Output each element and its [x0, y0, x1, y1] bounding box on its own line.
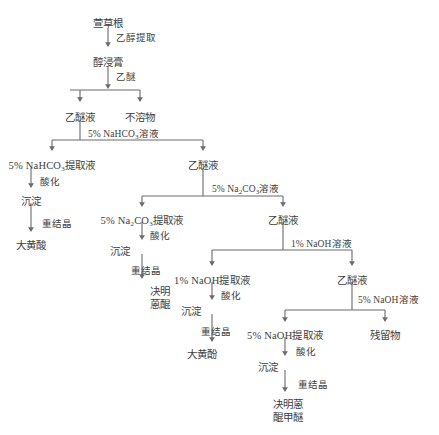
edge-label-ethanol: 乙醇提取	[116, 33, 156, 44]
node-naoh5_ex: 5% NaOH提取液	[247, 330, 323, 343]
edge-label-recryst4: 重结晶	[298, 380, 328, 391]
edge-label-acid1: 酸化	[40, 177, 60, 188]
node-precip2: 沉淀	[110, 246, 130, 259]
flowchart-edges	[0, 0, 439, 435]
edge-label-naoh1: 1% NaOH溶液	[291, 239, 352, 250]
node-eth4: 乙醚液	[337, 275, 368, 288]
flowchart-canvas: 萱草根醇浸膏乙醚液不溶物5% NaHCO3提取液乙醚液沉淀大黄酸5% Na2CO…	[0, 0, 439, 435]
edge-label-recryst3: 重结晶	[201, 327, 231, 338]
node-eth1: 乙醚液	[65, 112, 96, 125]
edge-label-ether: 乙醚	[116, 72, 136, 83]
edge-label-nahco3: 5% NaHCO3溶液	[88, 129, 159, 141]
node-chryso1: 决明蒽醌	[150, 286, 170, 311]
node-precip1: 沉淀	[21, 196, 41, 209]
node-final: 决明蒽醌甲醚	[273, 399, 304, 424]
edge-label-na2co3: 5% Na2CO3溶液	[212, 184, 279, 196]
edge-label-naoh5: 5% NaOH溶液	[358, 295, 419, 306]
node-root: 萱草根	[93, 18, 124, 31]
edge-label-acid4: 酸化	[296, 347, 316, 358]
edge-label-recryst2: 重结晶	[131, 266, 161, 277]
node-residue: 残留物	[370, 330, 401, 343]
edge-label-acid2: 酸化	[150, 231, 170, 242]
node-eth2: 乙醚液	[188, 160, 219, 173]
edge-label-acid3: 酸化	[221, 291, 241, 302]
node-extract: 醇浸膏	[93, 57, 124, 70]
node-insol: 不溶物	[125, 112, 156, 125]
node-precip4: 沉淀	[258, 362, 278, 375]
node-rhein: 大黄酸	[16, 240, 47, 253]
node-naoh1_ex: 1% NaOH提取液	[174, 275, 250, 288]
node-chrysophanol: 大黄酚	[187, 349, 218, 362]
node-nahco3_ex: 5% NaHCO3提取液	[9, 160, 96, 174]
node-eth3: 乙醚液	[268, 215, 299, 228]
edge-label-recryst1: 重结晶	[42, 219, 72, 230]
node-precip3: 沉淀	[181, 306, 201, 319]
node-na2co3_ex: 5% Na2CO3提取液	[101, 215, 184, 229]
